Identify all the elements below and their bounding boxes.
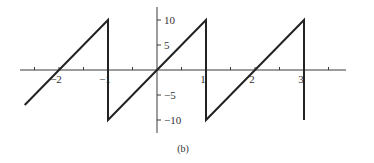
- x-tick-label: 1: [200, 73, 206, 85]
- y-tick-label: 5: [164, 39, 170, 51]
- sawtooth-chart: −2−1123105−5−10 (b): [0, 0, 374, 163]
- y-tick-label: 10: [164, 14, 176, 26]
- figure-caption: (b): [177, 143, 189, 155]
- x-tick-label: −1: [99, 73, 111, 85]
- y-tick-label: −10: [164, 114, 182, 126]
- x-tick-label: −2: [50, 73, 62, 85]
- y-tick-label: −5: [164, 89, 176, 101]
